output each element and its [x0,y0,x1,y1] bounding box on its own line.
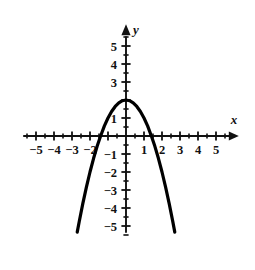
y-axis-arrow-icon [121,24,130,35]
x-axis-label: x [230,112,238,127]
y-tick-label: 3 [111,76,117,90]
y-tick-label: −5 [104,220,117,234]
x-tick-label: 4 [195,143,202,157]
y-tick-label: −1 [104,148,117,162]
y-tick-label: 4 [111,58,118,72]
chart-figure: −5−4−3−212345 5431−1−2−3−4−5 x y [0,0,255,270]
y-tick-label: −3 [104,184,117,198]
axis-group [23,24,239,233]
y-tick-label: −4 [104,202,118,216]
y-tick-label: 5 [111,40,117,54]
x-tick-label: 3 [177,143,183,157]
x-tick-label: −3 [65,143,78,157]
x-tick-label: −4 [47,143,61,157]
x-tick-label: 1 [141,143,147,157]
x-tick-label: 5 [213,143,219,157]
x-tick-label: −5 [29,143,42,157]
y-tick-label: −2 [104,166,117,180]
x-tick-label: 2 [159,143,165,157]
coordinate-plane: −5−4−3−212345 5431−1−2−3−4−5 x y [0,0,255,270]
x-axis-arrow-icon [229,131,239,140]
y-axis-label: y [131,22,139,37]
